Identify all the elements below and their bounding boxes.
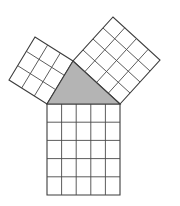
- square-on-hypotenuse-outline: [47, 104, 120, 195]
- square-on-hypotenuse: [47, 104, 120, 195]
- pythagoras-diagram: Pythagorean theorem figure: [0, 0, 180, 206]
- pythagorean-figure: Pythagorean theorem figure: [0, 0, 180, 206]
